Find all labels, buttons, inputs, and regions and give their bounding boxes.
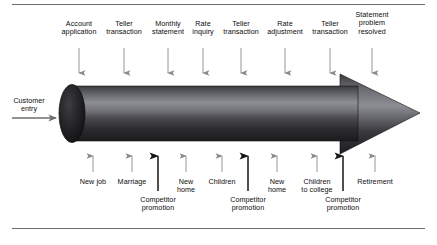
pipeline-body: [72, 86, 358, 141]
bottom-event-label: Marriage: [118, 178, 147, 186]
figure-canvas: Customer entry Account applicationTeller…: [0, 0, 437, 245]
competitor-promotion-label: Competitor promotion: [140, 196, 176, 213]
top-event-label: Rate adjustment: [267, 20, 303, 37]
top-event-label: Teller transaction: [223, 20, 259, 37]
customer-entry-label: Customer entry: [13, 97, 44, 114]
top-event-label: Rate inquiry: [192, 20, 214, 37]
bottom-event-label: Children: [208, 178, 235, 186]
top-event-label: Teller transaction: [106, 20, 142, 37]
pipeline-entry-opening: [59, 85, 85, 143]
bottom-event-label: New job: [80, 178, 106, 186]
competitor-promotion-label: Competitor promotion: [230, 196, 266, 213]
bottom-event-label: New home: [268, 178, 286, 195]
bottom-event-label: New home: [177, 178, 195, 195]
bottom-event-label: Children to college: [301, 178, 332, 195]
top-event-label: Statement problem resolved: [355, 11, 388, 36]
top-event-label: Teller transaction: [312, 20, 348, 37]
bottom-event-label: Retirement: [357, 178, 393, 186]
top-event-label: Monthly statement: [152, 20, 184, 37]
top-event-label: Account application: [62, 20, 97, 37]
competitor-promotion-label: Competitor promotion: [325, 196, 361, 213]
top-event-arrows: [79, 48, 372, 73]
